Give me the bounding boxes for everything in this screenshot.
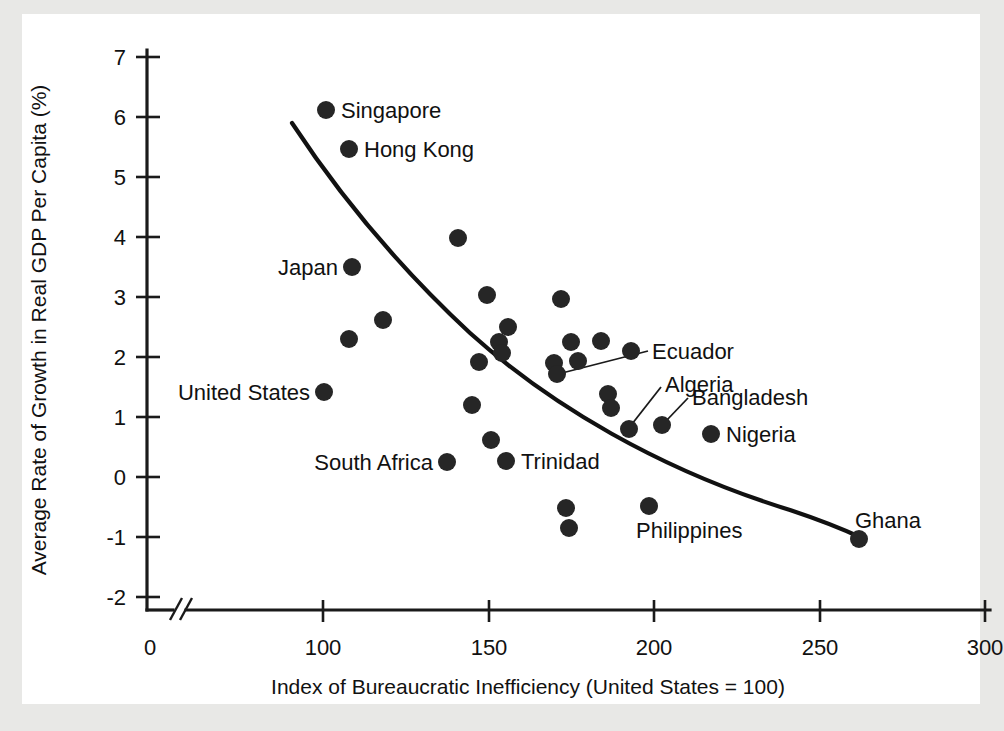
data-point-hong-kong	[340, 140, 358, 158]
point-label-ghana: Ghana	[855, 508, 922, 533]
y-tick-label: -2	[106, 585, 126, 610]
data-point-algeria	[620, 420, 638, 438]
data-point-unlabeled	[560, 519, 578, 537]
data-point-unlabeled	[569, 352, 587, 370]
data-point-japan	[343, 258, 361, 276]
trend-line	[292, 123, 862, 538]
data-point-unlabeled	[470, 353, 488, 371]
data-point-unlabeled	[493, 344, 511, 362]
point-label-ecuador: Ecuador	[652, 339, 734, 364]
data-point-unlabeled	[340, 330, 358, 348]
data-point-south-africa	[438, 453, 456, 471]
point-label-japan: Japan	[278, 255, 338, 280]
data-point-unlabeled	[482, 431, 500, 449]
data-point-unlabeled	[562, 333, 580, 351]
y-tick-label: 7	[114, 45, 126, 70]
data-point-unlabeled	[463, 396, 481, 414]
y-tick-labels: 7 6 5 4 3 2 1 0 -1 -2	[106, 45, 126, 610]
point-labels: Singapore Hong Kong Japan United States …	[178, 98, 922, 543]
data-point-philippines	[640, 497, 658, 515]
x-tick-labels: 0 100 150 200 250 300	[144, 635, 1003, 660]
scatter-chart: 7 6 5 4 3 2 1 0 -1 -2 0	[0, 0, 1004, 731]
plot-canvas: 7 6 5 4 3 2 1 0 -1 -2 0	[0, 0, 1004, 731]
data-point-unlabeled	[552, 290, 570, 308]
y-tick-label: 3	[114, 285, 126, 310]
y-tick-label: 1	[114, 405, 126, 430]
data-point-unlabeled	[449, 229, 467, 247]
x-axis-title: Index of Bureaucratic Inefficiency (Unit…	[271, 675, 785, 698]
y-tick-label: 5	[114, 165, 126, 190]
point-label-south-africa: South Africa	[314, 450, 433, 475]
point-label-united-states: United States	[178, 380, 310, 405]
data-point-trinidad	[497, 452, 515, 470]
data-point-unlabeled	[592, 332, 610, 350]
x-tick-label: 0	[144, 635, 156, 660]
data-point-nigeria	[702, 425, 720, 443]
y-tick-label: 6	[114, 105, 126, 130]
x-tick-label: 100	[305, 635, 342, 660]
point-label-trinidad: Trinidad	[521, 449, 600, 474]
data-points	[315, 101, 868, 548]
data-point-unlabeled	[602, 399, 620, 417]
leader-line-bangladesh	[666, 398, 688, 421]
x-tick-label: 300	[967, 635, 1004, 660]
data-point-bangladesh	[653, 416, 671, 434]
data-point-unlabeled	[622, 342, 640, 360]
point-label-bangladesh: Bangladesh	[692, 385, 808, 410]
y-tick-label: -1	[106, 525, 126, 550]
y-axis-title: Average Rate of Growth in Real GDP Per C…	[27, 85, 50, 576]
data-point-united-states	[315, 383, 333, 401]
data-point-singapore	[317, 101, 335, 119]
data-point-unlabeled	[499, 318, 517, 336]
x-tick-label: 200	[636, 635, 673, 660]
point-label-nigeria: Nigeria	[726, 422, 796, 447]
point-label-philippines: Philippines	[636, 518, 742, 543]
x-tick-label: 150	[471, 635, 508, 660]
point-label-singapore: Singapore	[341, 98, 441, 123]
point-label-hong-kong: Hong Kong	[364, 137, 474, 162]
data-point-unlabeled	[478, 286, 496, 304]
data-point-ecuador	[548, 365, 566, 383]
y-tick-label: 0	[114, 465, 126, 490]
y-tick-label: 2	[114, 345, 126, 370]
y-tick-label: 4	[114, 225, 126, 250]
x-tick-label: 250	[802, 635, 839, 660]
figure-page: 7 6 5 4 3 2 1 0 -1 -2 0	[0, 0, 1004, 731]
data-point-unlabeled	[374, 311, 392, 329]
data-point-unlabeled	[557, 499, 575, 517]
